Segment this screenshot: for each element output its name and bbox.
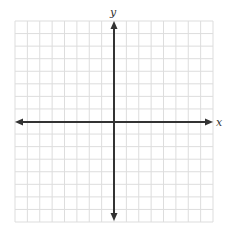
y-axis-down-arrow-icon [111, 213, 118, 221]
x-axis-right-arrow-icon [205, 119, 213, 126]
y-axis-up-arrow-icon [111, 21, 118, 29]
y-axis-label: y [109, 6, 117, 19]
coordinate-plane: x y [0, 0, 233, 239]
x-axis-label: x [216, 116, 223, 129]
x-axis-left-arrow-icon [15, 119, 23, 126]
